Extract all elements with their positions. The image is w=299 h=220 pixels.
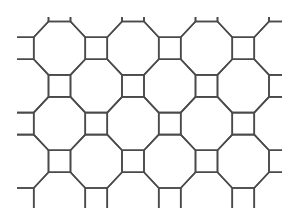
- octagon-tile: [144, 0, 196, 37]
- octagon-tile: [291, 135, 299, 188]
- square-tile: [85, 37, 107, 59]
- square-tile: [232, 188, 254, 210]
- octagon-tile: [291, 59, 299, 112]
- square-tile: [269, 0, 291, 22]
- octagon-tile: [34, 172, 86, 220]
- octagon-tile: [218, 0, 270, 37]
- square-tile: [122, 75, 144, 97]
- octagon-tile: [254, 172, 299, 220]
- square-tile: [12, 113, 34, 135]
- octagon-tile: [0, 172, 12, 220]
- square-tile: [122, 150, 144, 172]
- octagon-tile: [107, 172, 159, 220]
- square-tile: [85, 113, 107, 135]
- square-tile: [269, 75, 291, 97]
- square-tile: [12, 188, 34, 210]
- octagon-tile: [181, 172, 233, 220]
- tile-group: [0, 0, 299, 220]
- square-tile: [12, 37, 34, 59]
- square-tile: [232, 113, 254, 135]
- octagon-tile: [0, 22, 12, 75]
- square-tile: [196, 0, 218, 22]
- octagon-tile: [0, 97, 12, 150]
- square-tile: [232, 37, 254, 59]
- square-tile: [159, 113, 181, 135]
- square-tile: [159, 188, 181, 210]
- square-tile: [196, 75, 218, 97]
- square-tile: [49, 75, 71, 97]
- octagon-tile: [291, 210, 299, 220]
- square-tile: [122, 0, 144, 22]
- octagon-tile: [71, 210, 123, 220]
- square-tile: [85, 188, 107, 210]
- square-tile: [269, 150, 291, 172]
- octagon-tile: [291, 0, 299, 37]
- square-tile: [49, 0, 71, 22]
- square-tile: [49, 150, 71, 172]
- octagon-tile: [218, 210, 270, 220]
- square-tile: [196, 150, 218, 172]
- octagon-tile: [144, 210, 196, 220]
- octagon-tile: [0, 0, 49, 37]
- square-tile: [159, 37, 181, 59]
- octagon-square-tiling: [0, 0, 299, 220]
- octagon-tile: [0, 210, 49, 220]
- octagon-tile: [71, 0, 123, 37]
